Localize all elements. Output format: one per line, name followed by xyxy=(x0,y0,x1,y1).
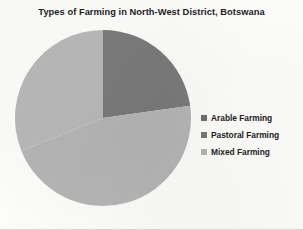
pie-slice-group xyxy=(15,30,191,206)
legend-label-arable-farming: Arable Farming xyxy=(211,113,272,123)
legend-label-mixed-farming: Mixed Farming xyxy=(211,147,270,157)
pie-chart xyxy=(15,30,191,206)
page-bottom-rule xyxy=(0,229,303,230)
pie-chart-svg xyxy=(15,30,191,206)
chart-page: Types of Farming in North-West District,… xyxy=(0,0,303,230)
legend-item-mixed-farming: Mixed Farming xyxy=(201,144,301,160)
legend-item-arable-farming: Arable Farming xyxy=(201,110,301,126)
pie-slice-arable-farming xyxy=(103,30,190,118)
legend-swatch-pastoral-farming xyxy=(201,132,207,138)
legend-item-pastoral-farming: Pastoral Farming xyxy=(201,127,301,143)
legend-swatch-mixed-farming xyxy=(201,149,207,155)
legend-swatch-arable-farming xyxy=(201,115,207,121)
legend-label-pastoral-farming: Pastoral Farming xyxy=(211,130,279,140)
chart-title: Types of Farming in North-West District,… xyxy=(0,6,303,18)
chart-legend: Arable Farming Pastoral Farming Mixed Fa… xyxy=(201,110,301,161)
